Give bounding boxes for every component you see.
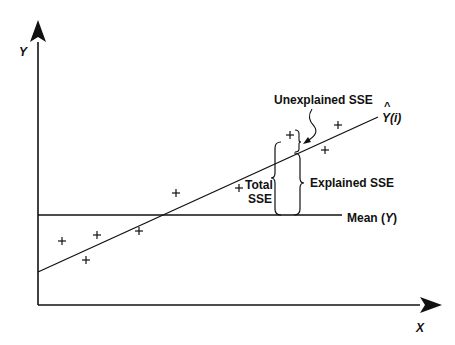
mean-label: Mean (Y) (347, 211, 397, 225)
data-point (58, 237, 66, 245)
unexplained-sse-arrowhead-icon (303, 137, 311, 144)
y-axis-label: Y (19, 45, 28, 59)
y-axis-arrowhead (30, 20, 46, 42)
data-point (135, 227, 143, 235)
data-point (321, 146, 329, 154)
x-axis-label: X (415, 321, 425, 335)
data-point (172, 189, 180, 197)
data-point (93, 231, 101, 239)
explained-sse-label: Explained SSE (310, 176, 394, 190)
regression-label: Y(i) (382, 111, 401, 125)
total-sse-label-line2: SSE (248, 192, 272, 206)
regression-line (38, 117, 378, 272)
explained-sse-brace (294, 153, 304, 215)
data-point (286, 131, 294, 139)
data-point (334, 121, 342, 129)
unexplained-sse-pointer (307, 109, 316, 141)
x-axis-arrowhead (420, 297, 442, 313)
unexplained-sse-bracket (295, 130, 301, 152)
unexplained-sse-label: Unexplained SSE (274, 93, 373, 107)
regression-diagram: Y X Mean (Y) ^ Y(i) Total SSE Explained … (0, 0, 455, 345)
data-point (235, 184, 243, 192)
total-sse-label-line1: Total (245, 178, 273, 192)
data-point (82, 256, 90, 264)
